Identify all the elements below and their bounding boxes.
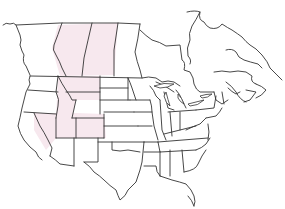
great-lakes [154, 83, 212, 106]
north-america-outline-map [0, 0, 285, 209]
canada-outline [3, 11, 282, 102]
